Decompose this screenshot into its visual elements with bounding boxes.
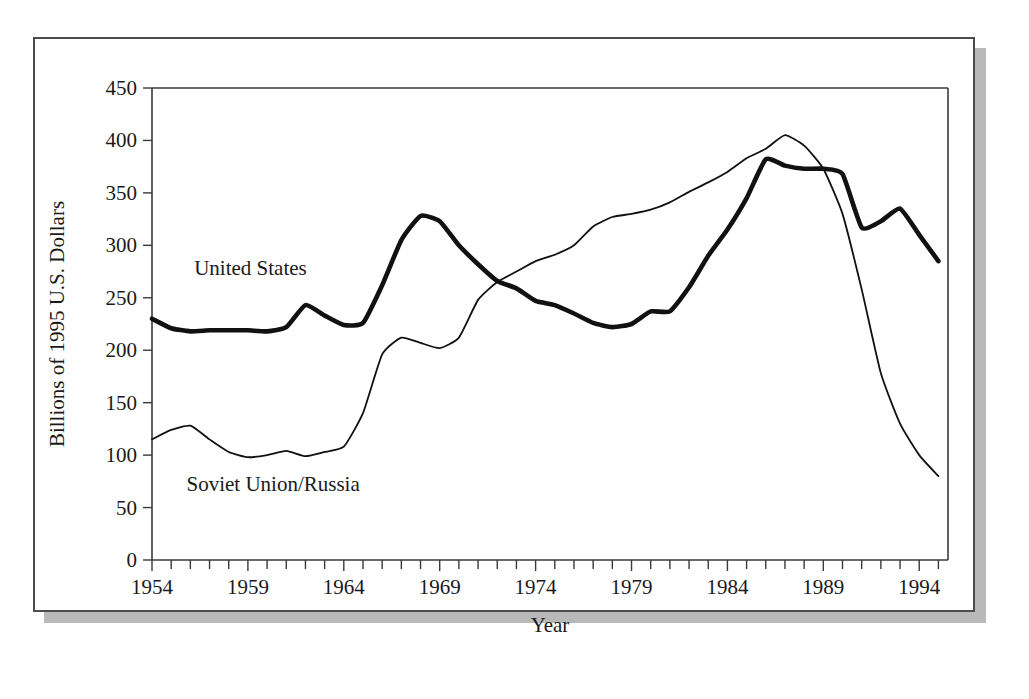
x-tick-label: 1954 — [131, 575, 174, 599]
series-label-soviet-union-russia: Soviet Union/Russia — [187, 472, 361, 496]
y-tick-label: 50 — [116, 496, 137, 520]
x-axis-title: Year — [531, 613, 570, 637]
y-tick-label: 300 — [106, 233, 138, 257]
y-tick-label: 350 — [106, 181, 138, 205]
x-axis-ticks: 195419591964196919741979198419891994 — [131, 560, 941, 599]
y-tick-label: 400 — [106, 128, 138, 152]
x-tick-label: 1959 — [227, 575, 269, 599]
y-tick-label: 0 — [127, 548, 138, 572]
x-tick-label: 1989 — [802, 575, 844, 599]
y-axis-title: Billions of 1995 U.S. Dollars — [45, 201, 69, 447]
x-tick-label: 1974 — [515, 575, 558, 599]
x-tick-label: 1964 — [323, 575, 366, 599]
x-tick-label: 1984 — [706, 575, 749, 599]
y-tick-label: 100 — [106, 443, 138, 467]
series-line-united-states — [152, 159, 938, 332]
x-tick-label: 1969 — [419, 575, 461, 599]
x-tick-label: 1994 — [898, 575, 941, 599]
series-label-united-states: United States — [194, 256, 307, 280]
series-line-soviet-union-russia — [152, 135, 938, 476]
figure-page: 050100150200250300350400450 195419591964… — [0, 0, 1029, 699]
y-tick-label: 150 — [106, 391, 138, 415]
y-tick-label: 200 — [106, 338, 138, 362]
x-tick-label: 1979 — [611, 575, 653, 599]
y-tick-label: 450 — [106, 76, 138, 100]
chart-svg: 050100150200250300350400450 195419591964… — [0, 0, 1029, 699]
series-paths — [152, 135, 938, 476]
y-axis-ticks: 050100150200250300350400450 — [106, 76, 153, 572]
y-tick-label: 250 — [106, 286, 138, 310]
line-chart: 050100150200250300350400450 195419591964… — [0, 0, 1029, 699]
series-inline-labels: United StatesSoviet Union/Russia — [187, 256, 361, 496]
